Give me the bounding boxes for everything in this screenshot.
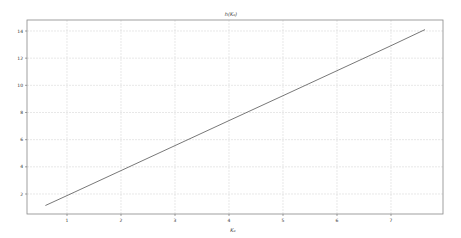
x-tick-label: 3	[174, 218, 177, 223]
x-axis-label: K₀	[230, 227, 235, 233]
y-axis-ticks: 2468101214	[17, 29, 27, 197]
chart-figure: 1234567 2468101214 h(K₀) K₀	[0, 0, 461, 238]
y-tick-label: 4	[20, 164, 23, 169]
x-tick-label: 5	[282, 218, 285, 223]
chart-title: h(K₀)	[225, 11, 237, 17]
x-tick-label: 6	[336, 218, 339, 223]
y-tick-label: 2	[20, 192, 23, 197]
x-tick-label: 2	[120, 218, 123, 223]
y-tick-label: 14	[17, 29, 23, 34]
y-tick-label: 12	[17, 56, 23, 61]
data-line	[45, 30, 425, 206]
y-tick-label: 10	[17, 83, 23, 88]
x-tick-label: 7	[390, 218, 393, 223]
x-axis-ticks: 1234567	[66, 214, 393, 223]
y-tick-label: 6	[20, 137, 23, 142]
x-tick-label: 1	[66, 218, 69, 223]
x-tick-label: 4	[228, 218, 231, 223]
y-tick-label: 8	[20, 110, 23, 115]
